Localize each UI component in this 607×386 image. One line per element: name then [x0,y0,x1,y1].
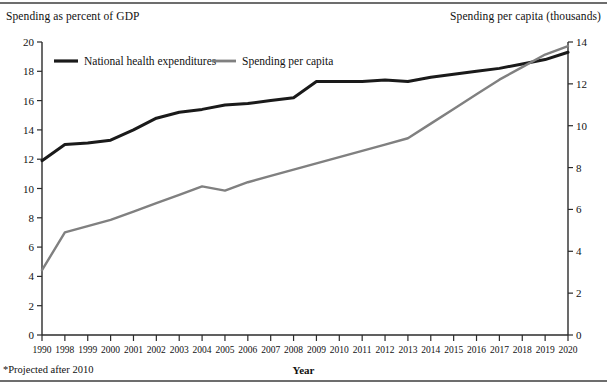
x-axis-tick-label: 2002 [147,345,166,355]
x-axis-tick-label: 2015 [444,345,463,355]
x-axis-tick-label: 2013 [398,345,417,355]
series-line-left [42,52,568,160]
legend-label-nhe: National health expenditures [84,55,217,68]
x-axis-tick-label: 1990 [33,345,52,355]
left-axis-tick-label: 14 [23,124,35,136]
x-axis-tick-label: 1998 [55,345,74,355]
x-axis-tick-label: 2007 [261,345,280,355]
x-axis: 1990199819992000200120022003200420052006… [33,335,578,355]
x-axis-tick-label: 2001 [124,345,143,355]
x-axis-tick-label: 2020 [559,345,578,355]
x-axis-tick-label: 2004 [193,345,212,355]
legend-label-percapita: Spending per capita [242,55,333,68]
top-divider-rule [0,2,607,4]
x-axis-tick-label: 2010 [330,345,349,355]
x-axis-tick-label: 2009 [307,345,326,355]
x-axis-tick-label: 2012 [376,345,395,355]
left-axis-tick-label: 4 [29,270,35,282]
series-line-right [42,46,568,270]
chart-plot-area: 02468101214161820 02468101214 1990199819… [0,0,607,360]
right-axis: 02468101214 [568,36,588,341]
x-axis-tick-label: 2005 [215,345,234,355]
x-axis-title: Year [0,364,607,376]
left-axis: 02468101214161820 [23,36,42,341]
x-axis-tick-label: 2019 [536,345,555,355]
left-axis-tick-label: 12 [23,153,34,165]
right-axis-tick-label: 12 [576,78,587,90]
left-axis-tick-label: 0 [29,329,35,341]
data-series-group [42,46,568,270]
x-axis-tick-label: 2006 [238,345,257,355]
x-axis-tick-label: 2018 [513,345,532,355]
right-axis-tick-label: 10 [576,120,588,132]
left-axis-tick-label: 18 [23,65,35,77]
x-axis-tick-label: 1999 [78,345,97,355]
right-axis-tick-label: 14 [576,36,588,48]
chart-figure: Spending as percent of GDP Spending per … [0,0,607,386]
chart-legend: National health expendituresSpending per… [54,55,333,68]
bottom-divider-rule [0,380,607,382]
x-axis-tick-label: 2017 [490,345,509,355]
x-axis-tick-label: 2016 [467,345,486,355]
right-axis-tick-label: 8 [576,162,582,174]
left-axis-tick-label: 20 [23,36,35,48]
right-axis-tick-label: 2 [576,287,582,299]
x-axis-tick-label: 2003 [170,345,189,355]
left-axis-tick-label: 6 [29,241,35,253]
right-axis-tick-label: 6 [576,203,582,215]
x-axis-tick-label: 2011 [353,345,372,355]
left-axis-title: Spending as percent of GDP [6,10,140,23]
right-axis-tick-label: 0 [576,329,582,341]
x-axis-tick-label: 2014 [421,345,440,355]
x-axis-tick-label: 2008 [284,345,303,355]
right-axis-title: Spending per capita (thousands) [450,10,601,23]
left-axis-tick-label: 8 [29,212,35,224]
right-axis-tick-label: 4 [576,245,582,257]
left-axis-tick-label: 16 [23,95,35,107]
left-axis-tick-label: 2 [29,300,35,312]
x-axis-tick-label: 2000 [101,345,120,355]
left-axis-tick-label: 10 [23,183,35,195]
